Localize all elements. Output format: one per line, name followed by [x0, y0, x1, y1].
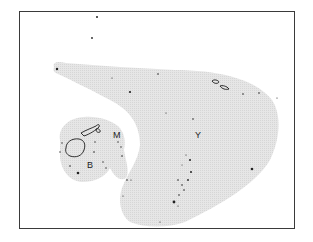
region-label-m: M — [113, 130, 121, 140]
region-label-b: B — [87, 160, 93, 170]
map: B M Y — [0, 0, 313, 242]
region-label-y: Y — [195, 130, 201, 140]
